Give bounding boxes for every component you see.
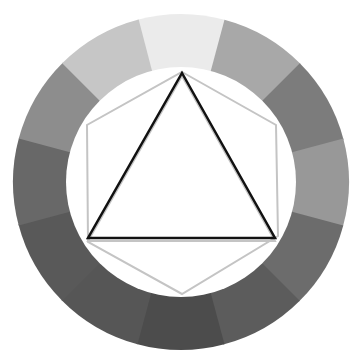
color-wheel-diagram xyxy=(0,0,354,363)
color-wheel xyxy=(0,0,354,363)
inner-white-disc xyxy=(66,67,296,297)
